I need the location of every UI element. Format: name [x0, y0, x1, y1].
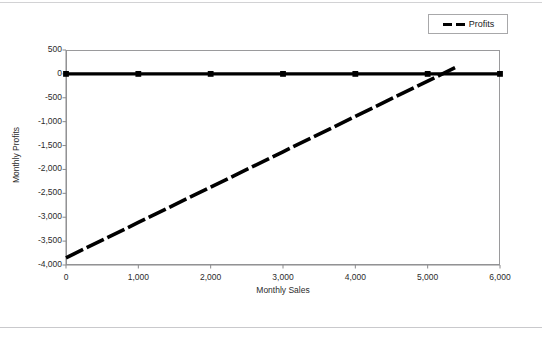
x-axis-tick-label: 2,000 — [181, 272, 241, 282]
x-axis-tick-label: 5,000 — [398, 272, 458, 282]
page-bottom-rule — [0, 327, 542, 328]
chart-page: 5000-500-1,000-1,500-2,000-2,500-3,000-3… — [0, 0, 542, 339]
legend-entry-label: Profits — [469, 19, 495, 29]
x-axis-tick-labels: 01,0002,0003,0004,0005,0006,000 — [0, 0, 542, 320]
x-axis-tick-label: 4,000 — [325, 272, 385, 282]
x-axis-tick-label: 0 — [36, 272, 96, 282]
x-axis-title: Monthly Sales — [66, 285, 500, 295]
x-axis-tick-label: 3,000 — [253, 272, 313, 282]
x-axis-tick-label: 1,000 — [108, 272, 168, 282]
profits-chart: 5000-500-1,000-1,500-2,000-2,500-3,000-3… — [0, 0, 542, 320]
legend-entry-profits[interactable]: Profits — [429, 15, 507, 33]
y-axis-title: Monthly Profits — [11, 95, 21, 215]
chart-legend[interactable]: Profits — [428, 14, 508, 34]
x-axis-tick-label: 6,000 — [470, 272, 530, 282]
dashed-line-icon — [442, 19, 468, 29]
